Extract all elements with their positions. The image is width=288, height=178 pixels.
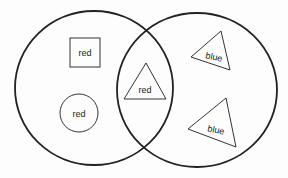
item-label: red <box>72 109 85 119</box>
item-label: blue <box>205 50 224 63</box>
item-triangle-blue-1: blue <box>191 31 230 70</box>
item-label: blue <box>207 123 226 136</box>
item-triangle-red: red <box>124 63 166 99</box>
item-label: red <box>138 85 151 95</box>
item-circle-red: red <box>60 94 98 132</box>
venn-svg: red red red blue blue <box>0 0 288 178</box>
venn-diagram: red red red blue blue <box>0 0 288 178</box>
item-square-red: red <box>70 38 100 67</box>
item-triangle-blue-2: blue <box>188 98 236 147</box>
item-label: red <box>78 48 91 58</box>
